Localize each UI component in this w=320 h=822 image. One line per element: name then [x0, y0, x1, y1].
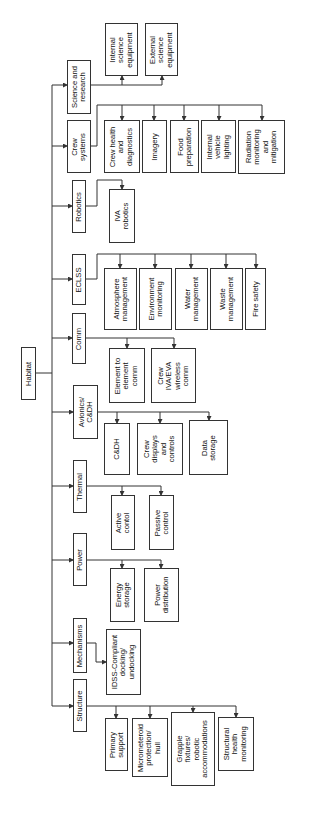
active-control-label: Active contol	[115, 512, 132, 533]
crew-iva-eva-wireless-comm-node: Crew IVA/EVA wireless comm	[151, 348, 196, 403]
active-control-node: Active contol	[111, 495, 135, 550]
science-research-label: Science and research	[71, 66, 88, 108]
food-preparation-node: Food preparation	[170, 120, 199, 173]
science-research-node: Science and research	[67, 60, 91, 114]
internal-vehicle-lighting-label: Internal vehicle lighting	[206, 134, 231, 159]
habitat-label: Habitat	[24, 361, 32, 385]
power-distribution-node: Power distribution	[144, 568, 179, 622]
micrometeroid-protection-label: Micrometeroid protection/ hull	[137, 723, 162, 771]
avionics-cdh-node: Avionics/ C&DH	[73, 385, 98, 439]
element-to-element-comm-label: Element to element comm	[114, 357, 139, 393]
water-management-label: Water management	[183, 277, 200, 321]
fire-safety-label: Fire safety	[251, 281, 259, 316]
avionics-cdh-label: Avionics/ C&DH	[77, 397, 94, 427]
energy-storage-label: Energy storage	[114, 582, 131, 607]
mechanisms-node: Mechanisms	[73, 618, 87, 673]
cdh-node: C&DH	[104, 423, 130, 475]
food-preparation-label: Food preparation	[176, 127, 193, 165]
iva-robotics-node: IVA robotics	[109, 189, 135, 243]
radiation-monitoring-label: Radiation monitoring and mitigation	[245, 129, 279, 164]
environment-monitoring-label: Environment monitoring	[147, 278, 164, 321]
fire-safety-node: Fire safety	[245, 268, 266, 330]
habitat-node: Habitat	[21, 347, 36, 400]
robotics-node: Robotics	[72, 180, 86, 233]
micrometeroid-protection-node: Micrometeroid protection/ hull	[132, 718, 168, 777]
comm-node: Comm	[72, 313, 86, 364]
power-node: Power	[73, 533, 87, 586]
eclss-node: ECLSS	[72, 254, 86, 305]
power-distribution-label: Power distribution	[153, 577, 170, 614]
crew-displays-controls-label: Crew displays and controls	[143, 435, 177, 462]
primary-support-label: Primary support	[108, 731, 125, 757]
atmosphere-management-node: Atmosphere management	[104, 268, 137, 330]
imagery-node: Imagery	[142, 120, 167, 173]
grapple-fixtures-label: Grapple fixtures/ robotic accommodations	[176, 720, 210, 777]
structure-label: Structure	[76, 690, 84, 721]
internal-science-equipment-node: Internal science equipment	[105, 23, 138, 76]
structural-health-monitoring-label: Structural health monitoring	[223, 726, 248, 761]
eclss-label: ECLSS	[75, 267, 83, 292]
energy-storage-node: Energy storage	[110, 568, 135, 622]
crew-displays-controls-node: Crew displays and controls	[137, 423, 183, 475]
crew-systems-label: Crew systems	[71, 133, 88, 161]
primary-support-node: Primary support	[105, 718, 128, 771]
crew-iva-eva-wireless-comm-label: Crew IVA/EVA wireless comm	[157, 361, 191, 389]
passive-control-node: Passive control	[149, 495, 174, 550]
data-storage-label: Data storage	[200, 435, 217, 460]
passive-control-label: Passive control	[153, 509, 170, 536]
mechanisms-label: Mechanisms	[76, 624, 84, 667]
external-science-equipment-label: External science equipment	[149, 32, 174, 67]
iva-robotics-label: IVA robotics	[114, 203, 131, 230]
atmosphere-management-label: Atmosphere management	[112, 277, 129, 321]
robotics-label: Robotics	[75, 192, 83, 222]
grapple-fixtures-node: Grapple fixtures/ robotic accommodations	[171, 712, 215, 786]
data-storage-node: Data storage	[189, 420, 228, 475]
water-management-node: Water management	[175, 268, 208, 330]
environment-monitoring-node: Environment monitoring	[139, 268, 172, 330]
waste-management-label: Waste management	[218, 277, 235, 321]
crew-systems-node: Crew systems	[67, 120, 91, 173]
waste-management-node: Waste management	[210, 268, 243, 330]
idss-docking-node: IDSS-Compliant docking/ undocking	[106, 629, 141, 695]
element-to-element-comm-node: Element to element comm	[109, 348, 145, 403]
internal-vehicle-lighting-node: Internal vehicle lighting	[201, 120, 236, 173]
radiation-monitoring-node: Radiation monitoring and mitigation	[238, 120, 285, 174]
thermal-label: Thermal	[76, 473, 84, 501]
cdh-label: C&DH	[113, 438, 121, 460]
power-label: Power	[76, 549, 84, 571]
structural-health-monitoring-node: Structural health monitoring	[218, 717, 254, 771]
crew-health-node: Crew health and diagnostics	[104, 120, 140, 173]
comm-label: Comm	[75, 327, 83, 349]
imagery-label: Imagery	[150, 133, 158, 160]
thermal-node: Thermal	[73, 460, 87, 513]
idss-docking-label: IDSS-Compliant docking/ undocking	[111, 635, 136, 689]
crew-health-label: Crew health and diagnostics	[109, 126, 134, 167]
external-science-equipment-node: External science equipment	[145, 23, 178, 76]
structure-node: Structure	[73, 679, 87, 732]
internal-science-equipment-label: Internal science equipment	[109, 32, 134, 67]
